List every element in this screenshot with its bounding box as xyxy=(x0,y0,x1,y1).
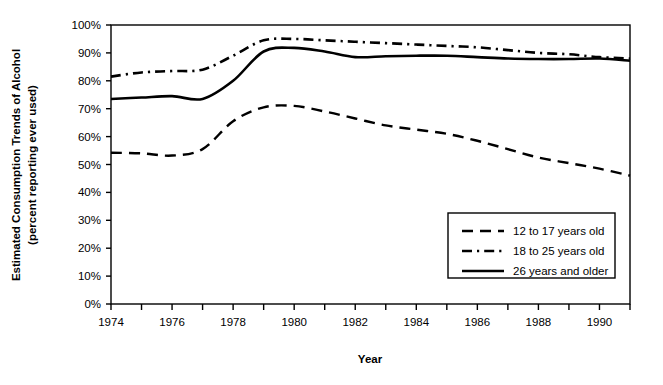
y-tick-label-40: 40% xyxy=(78,186,101,198)
legend: 12 to 17 years old18 to 25 years old26 y… xyxy=(448,213,615,278)
y-axis-title-line1: Estimated Consumption Trends of Alcohol xyxy=(10,49,22,281)
x-axis-title: Year xyxy=(358,353,383,365)
y-tick-label-30: 30% xyxy=(78,214,101,226)
alcohol-consumption-chart: 0%10%20%30%40%50%60%70%80%90%100% 197419… xyxy=(0,0,663,385)
y-tick-label-0: 0% xyxy=(84,298,101,310)
y-axis-title-line2: (percent reporting ever used) xyxy=(26,85,38,245)
y-tick-label-90: 90% xyxy=(78,47,101,59)
x-tick-label-1988: 1988 xyxy=(526,316,552,328)
y-axis-title: Estimated Consumption Trends of Alcohol … xyxy=(10,49,38,281)
y-tick-label-70: 70% xyxy=(78,103,101,115)
y-tick-label-60: 60% xyxy=(78,131,101,143)
legend-label-2: 26 years and older xyxy=(513,265,608,277)
y-tick-label-50: 50% xyxy=(78,159,101,171)
x-tick-label-1974: 1974 xyxy=(98,316,124,328)
x-tick-label-1986: 1986 xyxy=(465,316,491,328)
y-tick-label-80: 80% xyxy=(78,75,101,87)
x-tick-label-1984: 1984 xyxy=(403,316,429,328)
x-tick-label-1982: 1982 xyxy=(342,316,368,328)
y-axis: 0%10%20%30%40%50%60%70%80%90%100% xyxy=(72,19,111,310)
series-line-solid xyxy=(111,48,630,100)
x-tick-label-1976: 1976 xyxy=(159,316,185,328)
x-tick-label-1980: 1980 xyxy=(281,316,307,328)
y-tick-label-10: 10% xyxy=(78,270,101,282)
x-tick-label-1978: 1978 xyxy=(220,316,246,328)
legend-label-1: 18 to 25 years old xyxy=(513,245,604,257)
y-tick-label-100: 100% xyxy=(72,19,101,31)
series-line-dashed xyxy=(111,105,630,175)
y-tick-label-20: 20% xyxy=(78,242,101,254)
x-axis: 197419761978198019821984198619881990 xyxy=(98,304,630,328)
x-tick-label-1990: 1990 xyxy=(587,316,613,328)
data-series-group xyxy=(111,39,630,176)
legend-label-0: 12 to 17 years old xyxy=(513,225,604,237)
